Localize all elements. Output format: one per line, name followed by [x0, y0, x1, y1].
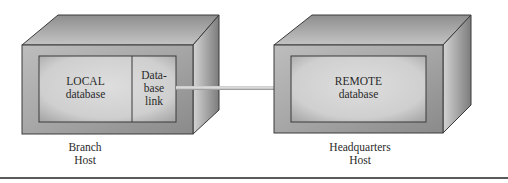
local-database-label: LOCAL database [39, 75, 132, 101]
headquarters-host-line2: Host [310, 154, 410, 167]
headquarters-host-line1: Headquarters [310, 141, 410, 154]
database-link-line1: Data- [132, 69, 176, 82]
branch-host-line1: Branch [50, 141, 120, 154]
remote-database-line2: database [291, 88, 426, 101]
branch-host-label: Branch Host [50, 141, 120, 167]
local-database-line1: LOCAL [39, 75, 132, 88]
database-link-line2: base [132, 82, 176, 95]
hq-box-top [274, 15, 471, 45]
bottom-rule [0, 177, 508, 179]
remote-database-line1: REMOTE [291, 75, 426, 88]
database-link-label: Data- base link [132, 69, 176, 108]
branch-box-top [22, 15, 219, 45]
remote-database-label: REMOTE database [291, 75, 426, 101]
local-database-line2: database [39, 88, 132, 101]
headquarters-host-box [274, 15, 471, 133]
headquarters-host-label: Headquarters Host [310, 141, 410, 167]
branch-host-line2: Host [50, 154, 120, 167]
database-link-line3: link [132, 95, 176, 108]
